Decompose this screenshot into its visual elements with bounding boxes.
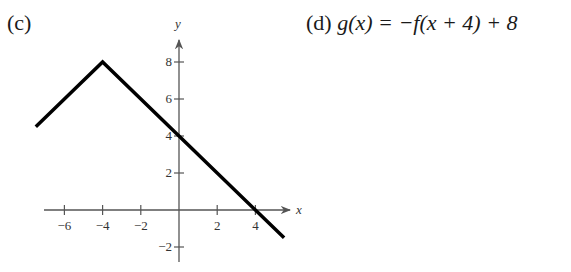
function-curve [36, 62, 284, 238]
x-tick-label: −6 [57, 218, 71, 233]
y-axis-label: y [173, 16, 181, 31]
x-tick-label: 4 [252, 218, 259, 233]
y-tick-label: 6 [166, 91, 173, 106]
y-tick-label: −2 [158, 239, 172, 254]
ticks: −6−4−224−22468 [57, 54, 259, 254]
graph: xy −6−4−224−22468 [0, 0, 571, 272]
x-axis-label: x [295, 202, 302, 217]
y-tick-label: 8 [166, 54, 173, 69]
x-tick-label: 2 [214, 218, 221, 233]
x-tick-label: −4 [96, 218, 110, 233]
y-tick-label: 2 [166, 165, 173, 180]
x-tick-label: −2 [134, 218, 148, 233]
axes: xy [44, 16, 302, 262]
